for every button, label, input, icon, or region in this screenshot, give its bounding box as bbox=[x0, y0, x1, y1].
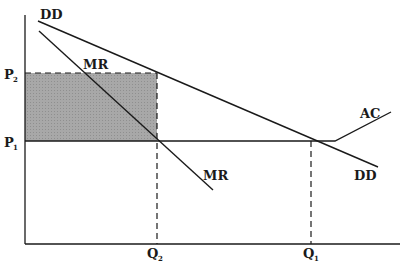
svg-text:Q: Q bbox=[303, 246, 314, 261]
q1-label: Q 1 bbox=[303, 246, 319, 263]
svg-text:2: 2 bbox=[158, 254, 163, 263]
q2-label: Q 2 bbox=[147, 246, 163, 263]
ac-label: AC bbox=[359, 106, 380, 121]
svg-text:Q: Q bbox=[147, 246, 158, 261]
mr-label-bottom: MR bbox=[203, 168, 228, 183]
svg-text:1: 1 bbox=[314, 254, 319, 263]
p2-label: P 2 bbox=[4, 67, 18, 84]
svg-text:2: 2 bbox=[13, 75, 18, 84]
economics-diagram: DD MR MR AC DD P 2 P 1 Q 2 Q 1 bbox=[0, 0, 402, 269]
profit-shaded-region bbox=[25, 73, 157, 141]
p1-label: P 1 bbox=[4, 135, 18, 152]
dd-label-top: DD bbox=[40, 7, 63, 22]
dd-label-bottom: DD bbox=[354, 168, 377, 183]
svg-text:1: 1 bbox=[13, 143, 18, 152]
mr-label-top: MR bbox=[83, 57, 108, 72]
